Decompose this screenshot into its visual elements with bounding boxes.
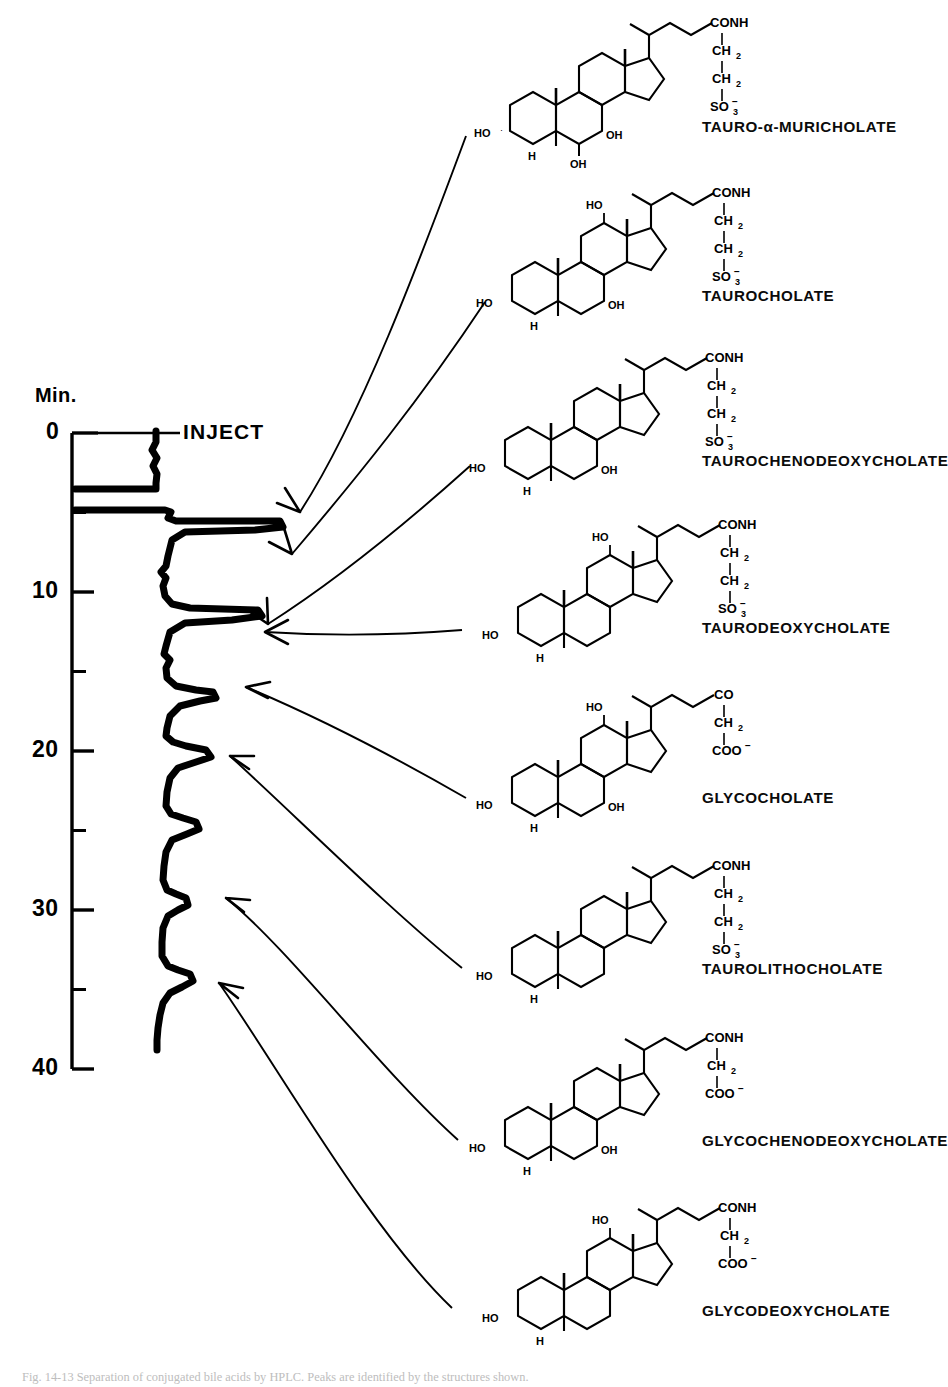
svg-text:SO: SO [712,269,731,284]
svg-text:CH: CH [714,241,733,256]
svg-text:H: H [530,320,538,332]
svg-text:H: H [536,652,544,664]
svg-text:OH: OH [606,129,623,141]
structure-label-glycochenodeoxycholate: GLYCOCHENODEOXYCHOLATE [702,1133,948,1148]
structure-label-taurolithocholate: TAUROLITHOCHOLATE [702,961,883,976]
svg-text:2: 2 [738,922,743,932]
svg-text:−: − [740,598,746,609]
svg-text:CH: CH [712,43,731,58]
svg-text:HO: HO [592,1214,609,1226]
axis-tick-label-20: 20 [32,738,59,761]
svg-text:HO: HO [592,531,609,543]
svg-text:−: − [734,939,740,950]
svg-text:−: − [738,1083,744,1094]
svg-text:2: 2 [738,894,743,904]
svg-text:CO: CO [714,687,734,702]
svg-text:HO: HO [474,127,491,139]
svg-text:CH: CH [714,886,733,901]
structure-glycocholate: HO H OH HO CO CH 2 COO − [476,687,751,834]
svg-text:HO: HO [469,462,486,474]
svg-text:2: 2 [738,723,743,733]
svg-text:2: 2 [738,249,743,259]
structure-label-glycocholate: GLYCOCHOLATE [702,790,834,805]
svg-text:−: − [732,96,738,107]
svg-text:3: 3 [741,609,746,619]
svg-text:−: − [745,740,751,751]
svg-text:2: 2 [731,414,736,424]
svg-text:H: H [530,822,538,834]
svg-text:CH: CH [707,378,726,393]
svg-text:SO: SO [705,434,724,449]
svg-text:CH: CH [720,545,739,560]
svg-text:·: · [500,125,503,135]
structure-taurolithocholate: HO H CONH CH 2 CH 2 SO 3 − [476,858,750,1005]
svg-text:HO: HO [476,970,493,982]
svg-text:H: H [528,150,536,162]
structure-glycodeoxycholate: HO H HO CONH CH 2 COO − [482,1200,757,1347]
structure-taurocholate: HO H OH HO CONH CH 2 CH 2 SO 3 − [476,185,750,332]
svg-text:2: 2 [731,1066,736,1076]
svg-text:COO: COO [705,1086,735,1101]
svg-text:H: H [530,993,538,1005]
axis-tick-label-0: 0 [46,420,59,443]
structure-label-taurodeoxycholate: TAURODEOXYCHOLATE [702,620,891,635]
svg-text:COO: COO [718,1256,748,1271]
svg-text:3: 3 [735,950,740,960]
chromatogram-trace [75,431,283,1050]
svg-text:2: 2 [731,386,736,396]
structure-tauro-alpha-muricholate: HO · H OH OH CONH CH 2 CH 2 SO 3 − [474,15,748,170]
svg-text:SO: SO [710,99,729,114]
svg-text:H: H [536,1335,544,1347]
svg-text:OH: OH [570,158,587,170]
svg-text:HO: HO [482,629,499,641]
structure-label-taurocholate: TAUROCHOLATE [702,288,834,303]
time-axis [72,433,98,1069]
axis-tick-label-30: 30 [32,897,59,920]
svg-text:HO: HO [469,1142,486,1154]
svg-text:2: 2 [744,553,749,563]
structure-taurodeoxycholate: HO H HO CONH CH 2 CH 2 SO 3 − [482,517,756,664]
structure-glycochenodeoxycholate: HO H OH CONH CH 2 COO − [469,1030,744,1177]
axis-tick-label-40: 40 [32,1056,59,1079]
svg-text:OH: OH [601,464,618,476]
svg-text:2: 2 [736,51,741,61]
structure-taurochenodeoxycholate: HO H OH CONH CH 2 CH 2 SO 3 − [469,350,743,497]
svg-text:HO: HO [476,297,493,309]
svg-text:H: H [523,1165,531,1177]
svg-text:CH: CH [714,213,733,228]
svg-text:CONH: CONH [718,1200,756,1215]
svg-text:CONH: CONH [712,858,750,873]
peak-connector-arrows [219,136,485,1308]
svg-text:CONH: CONH [718,517,756,532]
svg-text:2: 2 [744,1236,749,1246]
svg-text:3: 3 [735,277,740,287]
svg-text:HO: HO [476,799,493,811]
axis-title-min: Min. [35,385,77,405]
svg-text:2: 2 [744,581,749,591]
svg-text:−: − [727,431,733,442]
axis-tick-label-10: 10 [32,579,59,602]
svg-text:CH: CH [720,1228,739,1243]
svg-text:3: 3 [733,107,738,117]
svg-text:COO: COO [712,743,742,758]
svg-text:CH: CH [714,715,733,730]
svg-text:CH: CH [712,71,731,86]
svg-text:HO: HO [482,1312,499,1324]
svg-text:CH: CH [707,406,726,421]
svg-text:SO: SO [718,601,737,616]
svg-text:OH: OH [601,1144,618,1156]
structure-label-taurochenodeoxycholate: TAUROCHENODEOXYCHOLATE [702,453,948,468]
svg-text:OH: OH [608,801,625,813]
svg-text:3: 3 [728,442,733,452]
svg-text:CONH: CONH [705,350,743,365]
structure-label-tauro-alpha-muricholate: TAURO-α-MURICHOLATE [702,119,897,134]
svg-text:CONH: CONH [705,1030,743,1045]
svg-text:HO: HO [586,199,603,211]
svg-text:−: − [734,266,740,277]
svg-text:H: H [523,485,531,497]
svg-text:CH: CH [707,1058,726,1073]
svg-text:2: 2 [736,79,741,89]
figure-caption: Fig. 14-13 Separation of conjugated bile… [22,1370,868,1385]
